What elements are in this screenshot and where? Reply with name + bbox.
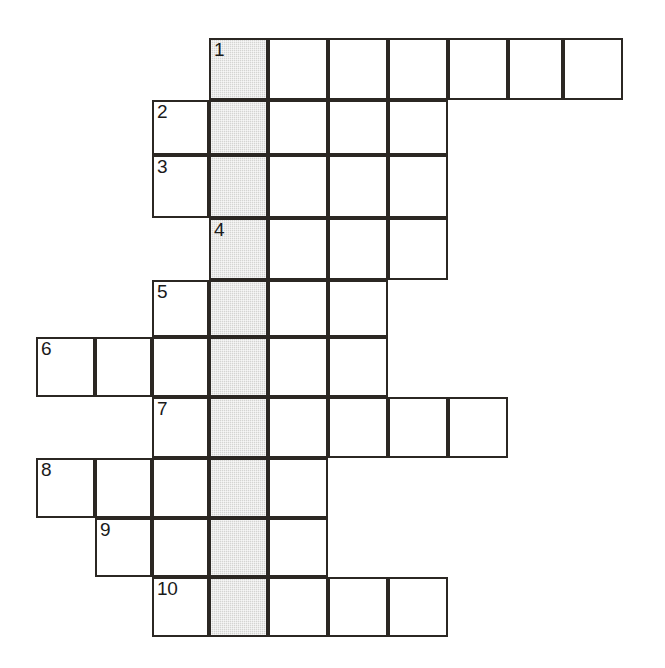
cell-number-1: 1 <box>214 39 224 60</box>
crossword-cell[interactable]: 7 <box>152 397 209 458</box>
crossword-cell[interactable] <box>152 458 209 518</box>
crossword-cell[interactable] <box>268 577 328 637</box>
crossword-cell[interactable] <box>328 280 388 337</box>
crossword-cell[interactable] <box>209 397 268 458</box>
crossword-cell[interactable] <box>268 155 328 218</box>
crossword-cell[interactable] <box>268 218 328 280</box>
crossword-cell[interactable] <box>95 337 152 397</box>
crossword-cell[interactable]: 2 <box>152 100 209 155</box>
crossword-cell[interactable] <box>388 38 448 100</box>
crossword-cell[interactable]: 9 <box>95 518 152 577</box>
crossword-cell[interactable] <box>328 397 388 458</box>
crossword-cell[interactable] <box>95 458 152 518</box>
crossword-cell[interactable] <box>328 100 388 155</box>
crossword-cell[interactable] <box>388 100 448 155</box>
crossword-cell[interactable] <box>328 577 388 637</box>
cell-number-8: 8 <box>41 459 51 480</box>
crossword-cell[interactable] <box>448 38 508 100</box>
crossword-cell[interactable]: 6 <box>36 337 95 397</box>
crossword-cell[interactable] <box>152 337 209 397</box>
cell-number-2: 2 <box>157 101 167 122</box>
cell-number-6: 6 <box>41 338 51 359</box>
crossword-cell[interactable] <box>209 337 268 397</box>
crossword-cell[interactable] <box>209 577 268 637</box>
crossword-cell[interactable] <box>152 518 209 577</box>
crossword-cell[interactable] <box>268 397 328 458</box>
crossword-cell[interactable] <box>268 100 328 155</box>
crossword-cell[interactable] <box>268 458 328 518</box>
crossword-cell[interactable] <box>209 458 268 518</box>
crossword-cell[interactable] <box>268 518 328 577</box>
crossword-cell[interactable] <box>268 38 328 100</box>
cell-number-9: 9 <box>100 519 110 540</box>
crossword-cell[interactable] <box>209 155 268 218</box>
cell-number-5: 5 <box>157 281 167 302</box>
crossword-cell[interactable]: 3 <box>152 155 209 218</box>
crossword-cell[interactable] <box>209 280 268 337</box>
crossword-cell[interactable] <box>388 397 448 458</box>
crossword-cell[interactable] <box>209 100 268 155</box>
cell-number-3: 3 <box>157 156 167 177</box>
cell-number-4: 4 <box>214 219 224 240</box>
crossword-cell[interactable] <box>209 518 268 577</box>
crossword-cell[interactable]: 4 <box>209 218 268 280</box>
crossword-cell[interactable] <box>268 280 328 337</box>
crossword-cell[interactable]: 8 <box>36 458 95 518</box>
crossword-cell[interactable] <box>328 155 388 218</box>
crossword-cell[interactable] <box>508 38 563 100</box>
crossword-cell[interactable] <box>328 218 388 280</box>
crossword-puzzle: 12345678910 <box>0 0 665 668</box>
crossword-cell[interactable] <box>328 38 388 100</box>
crossword-cell[interactable]: 1 <box>209 38 268 100</box>
crossword-cell[interactable]: 10 <box>152 577 209 637</box>
crossword-cell[interactable] <box>268 337 328 397</box>
crossword-cell[interactable] <box>388 155 448 218</box>
crossword-cell[interactable] <box>328 337 388 397</box>
cell-number-7: 7 <box>157 398 167 419</box>
crossword-grid: 12345678910 <box>0 0 665 668</box>
crossword-cell[interactable] <box>388 577 448 637</box>
crossword-cell[interactable] <box>388 218 448 280</box>
crossword-cell[interactable] <box>448 397 508 458</box>
cell-number-10: 10 <box>157 578 178 599</box>
crossword-cell[interactable] <box>563 38 623 100</box>
crossword-cell[interactable]: 5 <box>152 280 209 337</box>
